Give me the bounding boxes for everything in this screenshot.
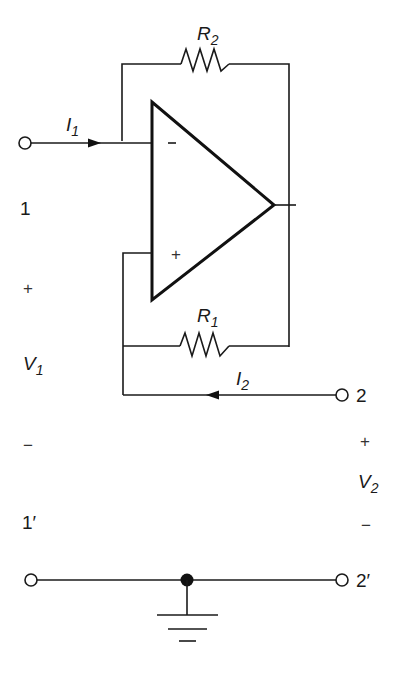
label-v1: V1 — [23, 353, 43, 378]
label-i2: I2 — [236, 368, 249, 393]
label-port-1-prime: 1′ — [22, 512, 37, 533]
label-port-2: 2 — [356, 385, 367, 406]
port2-wire — [123, 389, 348, 401]
v1-plus: + — [23, 279, 33, 298]
label-port-1: 1 — [20, 198, 31, 219]
input-wire-1 — [19, 137, 152, 149]
circuit-diagram: + R2 R1 I1 I2 1 + V1 — [0, 0, 395, 673]
label-r1: R1 — [197, 305, 219, 330]
current-arrow-i2 — [206, 391, 219, 400]
v2-minus: − — [361, 516, 371, 535]
plus-sign-noninverting: + — [171, 245, 181, 264]
label-i1: I1 — [66, 114, 79, 139]
label-port-2-prime: 2′ — [356, 570, 371, 591]
current-arrow-i1 — [88, 139, 101, 148]
label-r2: R2 — [197, 23, 219, 48]
v1-minus: − — [23, 436, 33, 455]
ground-wire — [25, 574, 348, 642]
terminal-1[interactable] — [19, 137, 31, 149]
v2-plus: + — [360, 432, 370, 451]
opamp: + — [152, 102, 296, 300]
resistor-r1 — [180, 333, 229, 356]
label-v2: V2 — [358, 471, 379, 496]
terminal-1-prime[interactable] — [25, 574, 37, 586]
resistor-r2 — [181, 49, 229, 71]
terminal-2[interactable] — [336, 389, 348, 401]
ground-icon — [157, 615, 218, 641]
terminal-2-prime[interactable] — [336, 574, 348, 586]
